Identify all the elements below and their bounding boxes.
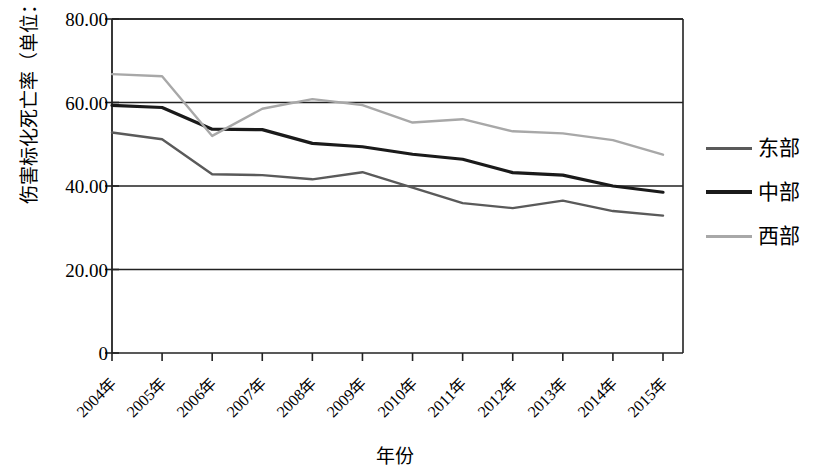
- legend-line-swatch: [706, 147, 752, 150]
- legend-label: 西部: [758, 226, 800, 247]
- legend-label: 东部: [758, 138, 800, 159]
- plot-area: [0, 0, 816, 470]
- legend-line-swatch: [706, 235, 752, 238]
- series-line-西部: [112, 74, 663, 155]
- legend-label: 中部: [758, 182, 800, 203]
- x-axis-title: 年份: [0, 441, 790, 468]
- y-tick-label: 60.00: [30, 93, 108, 112]
- legend-item-东部[interactable]: 东部: [706, 126, 816, 170]
- legend-line-swatch: [706, 190, 752, 194]
- y-tick-label: 80.00: [30, 10, 108, 29]
- chart-legend: 东部中部西部: [706, 126, 816, 258]
- y-tick-label: 20.00: [30, 260, 108, 279]
- legend-item-中部[interactable]: 中部: [706, 170, 816, 214]
- series-line-东部: [112, 133, 663, 216]
- y-tick-label: 0: [30, 344, 108, 363]
- legend-item-西部[interactable]: 西部: [706, 214, 816, 258]
- line-chart-figure: 伤害标化死亡率（单位：1/10万） 020.0040.0060.0080.00 …: [0, 0, 816, 470]
- y-tick-label: 40.00: [30, 177, 108, 196]
